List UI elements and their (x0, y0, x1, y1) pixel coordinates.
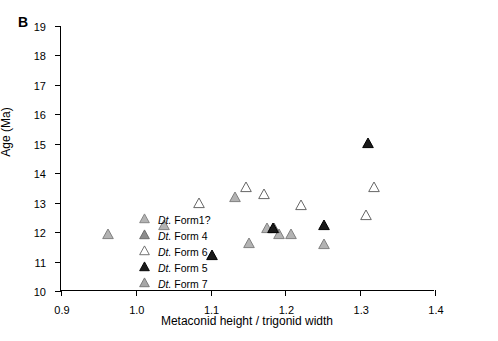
y-tick: 12 (55, 232, 61, 233)
triangle-up-icon (240, 179, 252, 191)
y-tick-label: 14 (34, 168, 46, 180)
y-axis-title: Age (Ma) (0, 107, 13, 156)
y-tick: 11 (55, 262, 61, 263)
y-tick: 13 (55, 203, 61, 204)
y-tick: 17 (55, 85, 61, 86)
triangle-up-icon (285, 226, 297, 238)
legend-item-label: Dt. Form1? (158, 214, 211, 226)
x-tick: 1.1 (211, 290, 212, 296)
triangle-up-icon (267, 220, 279, 232)
y-tick: 16 (55, 114, 61, 115)
legend-item: Dt. Form 7 (139, 276, 211, 292)
x-tick-label: 1.3 (354, 304, 369, 316)
triangle-up-icon (258, 186, 270, 198)
y-tick-label: 18 (34, 50, 46, 62)
y-tick-label: 10 (34, 286, 46, 298)
triangle-up-icon (139, 245, 153, 259)
x-tick: 1.0 (136, 290, 137, 296)
x-tick-label: 1.1 (204, 304, 219, 316)
legend-item: Dt. Form 4 (139, 228, 211, 244)
x-tick: 1.2 (285, 290, 286, 296)
legend-item-label: Dt. Form 7 (158, 278, 208, 290)
y-tick-label: 15 (34, 139, 46, 151)
y-tick-label: 13 (34, 198, 46, 210)
chart-legend: Dt. Form1?Dt. Form 4Dt. Form 6Dt. Form 5… (139, 212, 211, 292)
x-tick: 1.4 (435, 290, 436, 296)
x-tick-label: 1.0 (129, 304, 144, 316)
x-axis-title: Metaconid height / trigonid width (60, 314, 434, 328)
y-tick-label: 11 (35, 257, 46, 269)
triangle-up-icon (139, 213, 153, 227)
triangle-up-icon (193, 195, 205, 207)
plot-area: 10111213141516171819 0.91.01.11.21.31.4 … (60, 26, 434, 291)
y-tick-label: 16 (34, 109, 46, 121)
x-tick-label: 1.4 (428, 304, 443, 316)
triangle-up-icon (139, 277, 153, 291)
x-tick: 1.3 (360, 290, 361, 296)
y-tick: 14 (55, 173, 61, 174)
x-tick-label: 1.2 (279, 304, 294, 316)
triangle-up-icon (318, 217, 330, 229)
legend-item-label: Dt. Form 6 (158, 246, 208, 258)
legend-item-label: Dt. Form 4 (158, 230, 208, 242)
triangle-up-icon (368, 179, 380, 191)
legend-item: Dt. Form 5 (139, 260, 211, 276)
legend-item: Dt. Form1? (139, 212, 211, 228)
triangle-up-icon (243, 235, 255, 247)
triangle-up-icon (318, 236, 330, 248)
triangle-up-icon (362, 135, 374, 147)
panel-label: B (18, 14, 28, 30)
y-tick: 18 (55, 55, 61, 56)
legend-item-label: Dt. Form 5 (158, 262, 208, 274)
y-tick: 15 (55, 144, 61, 145)
x-tick-label: 0.9 (54, 304, 69, 316)
triangle-up-icon (360, 207, 372, 219)
x-tick: 0.9 (61, 290, 62, 296)
y-tick-label: 17 (34, 80, 46, 92)
y-tick-label: 19 (34, 21, 46, 33)
y-tick-label: 12 (34, 227, 46, 239)
triangle-up-icon (102, 226, 114, 238)
triangle-up-icon (139, 261, 153, 275)
y-tick: 19 (55, 26, 61, 27)
legend-item: Dt. Form 6 (139, 244, 211, 260)
triangle-up-icon (295, 197, 307, 209)
chart-figure: B Age (Ma) Metaconid height / trigonid w… (0, 0, 498, 341)
triangle-up-icon (139, 229, 153, 243)
triangle-up-icon (229, 189, 241, 201)
